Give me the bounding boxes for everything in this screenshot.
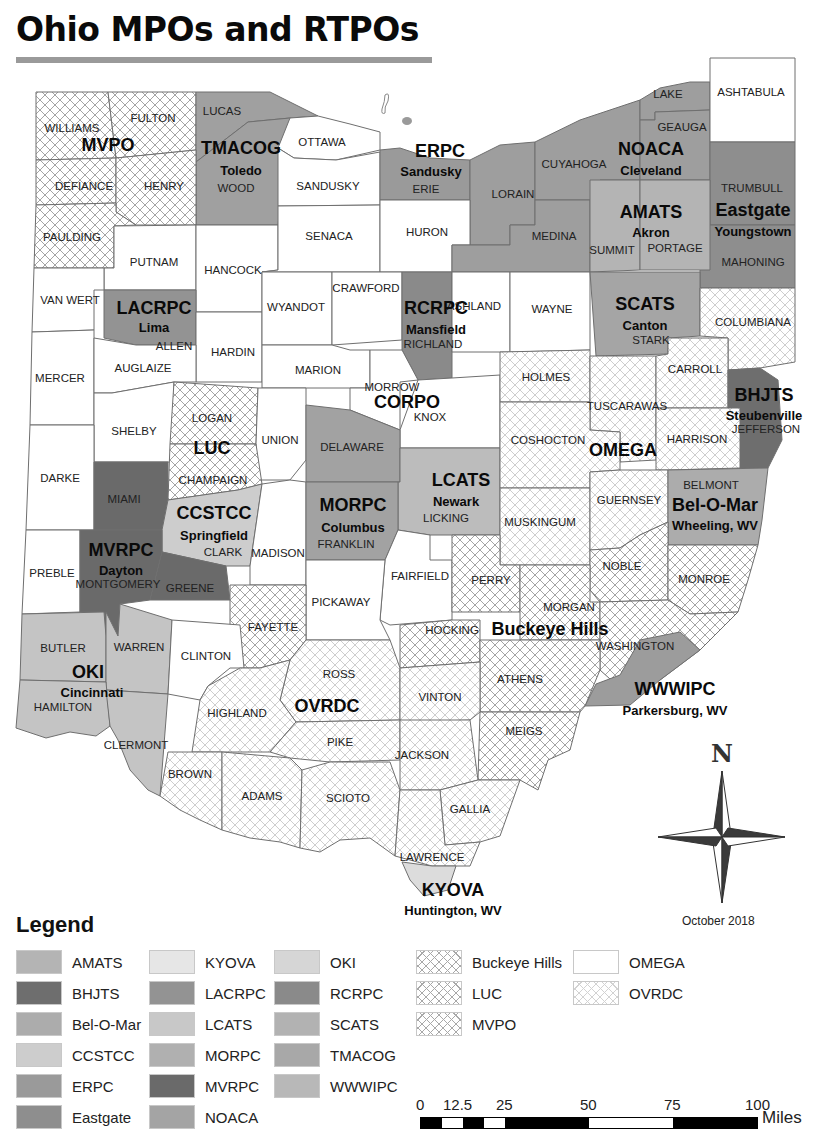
- swatch: [149, 1074, 195, 1098]
- org-lcats: LCATS: [432, 470, 491, 490]
- label-summit: SUMMIT: [589, 244, 634, 256]
- label-lawrence: LAWRENCE: [400, 851, 465, 863]
- label-wayne: WAYNE: [532, 303, 573, 315]
- label-washington: WASHINGTON: [596, 640, 675, 652]
- label-paulding: PAULDING: [43, 231, 101, 243]
- legend-item-morpc: MORPC: [149, 1043, 261, 1067]
- label-fairfield: FAIRFIELD: [391, 570, 449, 582]
- legend-item-eastgate: Eastgate: [16, 1105, 131, 1129]
- label-mercer: MERCER: [35, 372, 85, 384]
- swatch: [274, 950, 320, 974]
- label-lucas: LUCAS: [203, 105, 242, 117]
- label-coshocton: COSHOCTON: [511, 434, 586, 446]
- legend-item-ccstcc: CCSTCC: [16, 1043, 135, 1067]
- county-meigs: [478, 712, 580, 790]
- city-parkersburg: Parkersburg, WV: [623, 703, 728, 718]
- swatch: [573, 950, 619, 974]
- label-crawford: CRAWFORD: [332, 282, 399, 294]
- label-jackson: JACKSON: [395, 749, 449, 761]
- label-lorain: LORAIN: [492, 188, 535, 200]
- city-springfield: Springfield: [180, 528, 248, 543]
- city-columbus: Columbus: [321, 520, 385, 535]
- city-youngstown: Youngstown: [714, 224, 791, 239]
- legend-item-luc: LUC: [416, 981, 502, 1005]
- swatch: [16, 981, 62, 1005]
- org-amats: AMATS: [620, 202, 683, 222]
- label-hardin: HARDIN: [211, 346, 255, 358]
- label-jefferson: JEFFERSON: [732, 423, 800, 435]
- legend-title: Legend: [16, 912, 94, 938]
- city-akron: Akron: [632, 225, 670, 240]
- label-putnam: PUTNAM: [130, 256, 179, 268]
- label-allen: ALLEN: [156, 340, 192, 352]
- legend-item-tmacog: TMACOG: [274, 1043, 396, 1067]
- label-franklin: FRANKLIN: [318, 538, 375, 550]
- label-perry: PERRY: [471, 574, 511, 586]
- org-morpc: MORPC: [320, 495, 387, 515]
- city-toledo: Toledo: [220, 163, 262, 178]
- label-pickaway: PICKAWAY: [312, 596, 371, 608]
- swatch: [149, 981, 195, 1005]
- label-montgomery: MONTGOMERY: [76, 578, 161, 590]
- city-cincinnati: Cincinnati: [61, 685, 124, 700]
- label-mahoning: MAHONING: [721, 256, 784, 268]
- county-ashtabula: [710, 58, 795, 142]
- swatch: [16, 1043, 62, 1067]
- label-adams: ADAMS: [242, 790, 283, 802]
- label-defiance: DEFIANCE: [55, 180, 113, 192]
- label-vinton: VINTON: [418, 691, 461, 703]
- label-harrison: HARRISON: [667, 433, 728, 445]
- org-luc: LUC: [194, 438, 231, 458]
- legend-item-lacrpc: LACRPC: [149, 981, 266, 1005]
- legend-item-kyova: KYOVA: [149, 950, 256, 974]
- city-lima: Lima: [139, 320, 170, 335]
- label-muskingum: MUSKINGUM: [504, 516, 576, 528]
- label-butler: BUTLER: [40, 642, 85, 654]
- label-erie: ERIE: [413, 183, 440, 195]
- label-portage: PORTAGE: [647, 242, 702, 254]
- label-darke: DARKE: [40, 472, 80, 484]
- city-steubenville: Steubenville: [726, 408, 803, 423]
- label-athens: ATHENS: [497, 673, 543, 685]
- label-clinton: CLINTON: [181, 650, 231, 662]
- org-eastgate: Eastgate: [715, 200, 790, 220]
- label-senaca: SENACA: [305, 230, 353, 242]
- label-richland: RICHLAND: [404, 338, 463, 350]
- legend-item-ovrdc: OVRDC: [573, 981, 683, 1005]
- label-clermont: CLERMONT: [104, 739, 169, 751]
- swatch: [416, 1012, 462, 1036]
- org-rcrpc: RCRPC: [404, 298, 468, 318]
- north-label: N: [711, 739, 733, 768]
- label-auglaize: AUGLAIZE: [115, 362, 172, 374]
- swatch: [16, 1074, 62, 1098]
- label-medina: MEDINA: [532, 230, 577, 242]
- legend-item-amats: AMATS: [16, 950, 123, 974]
- org-mvpo: MVPO: [81, 135, 134, 155]
- county-brown: [160, 752, 222, 830]
- legend-item-wwwipc: WWWIPC: [274, 1074, 397, 1098]
- label-holmes: HOLMES: [522, 371, 571, 383]
- swatch: [149, 950, 195, 974]
- label-cuyahoga: CUYAHOGA: [542, 158, 607, 170]
- lake-erie-islands: [382, 94, 412, 125]
- city-huntington: Huntington, WV: [404, 903, 502, 918]
- swatch: [274, 981, 320, 1005]
- label-fayette: FAYETTE: [248, 621, 299, 633]
- legend-item-mvpo: MVPO: [416, 1012, 516, 1036]
- swatch: [149, 1012, 195, 1036]
- org-kyova: KYOVA: [422, 880, 485, 900]
- label-pike: PIKE: [327, 736, 354, 748]
- label-monroe: MONROE: [678, 573, 730, 585]
- org-scats: SCATS: [615, 294, 675, 314]
- org-noaca: NOACA: [618, 139, 684, 159]
- legend-item-lcats: LCATS: [149, 1012, 252, 1036]
- label-williams: WILLIAMS: [45, 122, 100, 134]
- label-shelby: SHELBY: [111, 425, 157, 437]
- label-geauga: GEAUGA: [657, 121, 707, 133]
- label-sandusky: SANDUSKY: [296, 180, 360, 192]
- swatch: [573, 981, 619, 1005]
- label-greene: GREENE: [166, 582, 215, 594]
- org-lacrpc: LACRPC: [117, 298, 192, 318]
- label-hamilton: HAMILTON: [34, 701, 92, 713]
- label-van-wert: VAN WERT: [40, 294, 100, 306]
